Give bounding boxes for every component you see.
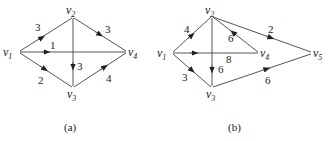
edge-weight: 6 (228, 32, 234, 44)
svg-text:v4: v4 (260, 46, 269, 62)
edge-b-v1-v4: 8 (173, 53, 258, 65)
vertex-b-v2: v2 (205, 3, 214, 19)
edge-weight: 2 (268, 23, 274, 35)
svg-text:v1: v1 (157, 46, 166, 62)
caption-b: (b) (228, 121, 241, 134)
edge-weight: 3 (182, 71, 188, 83)
edge-b-v2-v3: 6 (212, 18, 224, 86)
svg-text:v3: v3 (67, 87, 76, 103)
svg-text:v3: v3 (206, 87, 215, 103)
edge-weight: 8 (226, 53, 232, 65)
edge-weight: 3 (77, 60, 83, 72)
vertex-b-v5: v5 (313, 46, 322, 62)
edge-b-v1-v3: 3 (173, 54, 211, 87)
edge-weight: 4 (106, 72, 112, 84)
svg-text:v2: v2 (205, 3, 214, 19)
edge-a-v2-v4: 3 (74, 18, 126, 51)
edge-weight: 6 (265, 74, 271, 86)
edge-b-v1-v2: 4 (173, 17, 211, 52)
edge-a-v1-v2: 3 (20, 18, 72, 51)
vertex-b-v3: v3 (206, 87, 215, 103)
vertex-a-v3: v3 (67, 87, 76, 103)
edge-weight: 2 (38, 74, 44, 86)
vertex-b-v1: v1 (157, 46, 166, 62)
edge-weight: 4 (184, 23, 190, 35)
edge-b-v4-v2: 6 (213, 17, 258, 52)
vertex-b-v4: v4 (260, 46, 269, 62)
svg-text:v2: v2 (66, 3, 75, 19)
svg-text:v5: v5 (313, 46, 322, 62)
graph-b: 4 6 2 8 6 3 (157, 3, 322, 134)
weighted-digraph-figure: 3 1 3 2 3 4 (0, 0, 330, 141)
edge-weight: 3 (35, 21, 41, 33)
edge-weight: 1 (50, 39, 56, 51)
edge-weight: 6 (218, 63, 224, 75)
vertex-a-v2: v2 (66, 3, 75, 19)
vertex-a-v4: v4 (128, 45, 137, 61)
vertex-a-v1: v1 (3, 45, 12, 61)
svg-text:v4: v4 (128, 45, 137, 61)
svg-text:v1: v1 (3, 45, 12, 61)
caption-a: (a) (64, 121, 77, 134)
graph-a: 3 1 3 2 3 4 (3, 3, 137, 134)
edge-weight: 3 (105, 23, 111, 35)
edge-a-v1-v3: 2 (20, 53, 72, 87)
